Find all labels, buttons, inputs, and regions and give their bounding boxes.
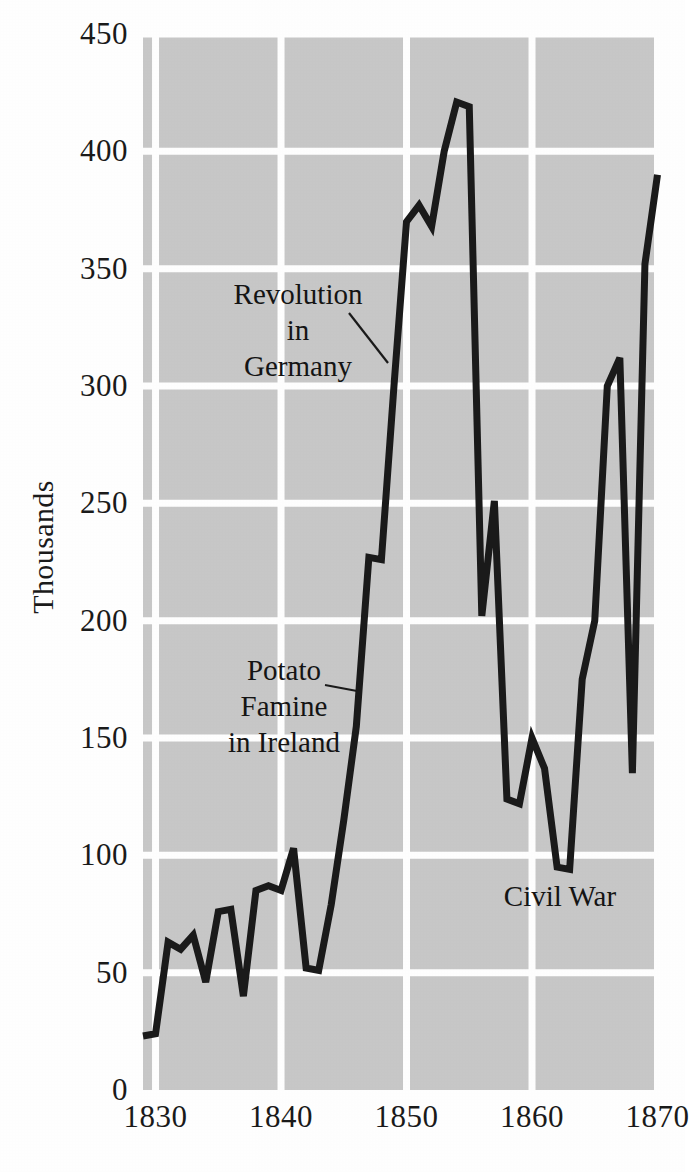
y-tick-label: 350 (28, 253, 128, 284)
annotation-line: Famine (186, 688, 382, 724)
y-axis-title: Thousands (26, 447, 60, 647)
y-tick-label: 50 (28, 957, 128, 988)
y-tick-400: 400 (18, 135, 128, 166)
y-tick-label: 400 (28, 135, 128, 166)
x-tick-label: 1850 (342, 1100, 472, 1134)
x-tick-1860: 1860 (467, 1100, 597, 1134)
x-tick-label: 1840 (216, 1100, 346, 1134)
annotation-line: in Ireland (186, 724, 382, 760)
annotation-potato-famine-in-ireland: Potato Famine in Ireland (186, 652, 382, 760)
y-tick-300: 300 (18, 370, 128, 401)
annotation-line: Civil War (470, 878, 650, 914)
x-tick-1840: 1840 (216, 1100, 346, 1134)
x-tick-label: 1860 (467, 1100, 597, 1134)
annotation-line: Revolution (198, 276, 398, 312)
y-tick-450: 450 (18, 18, 128, 49)
y-tick-label: 450 (28, 18, 128, 49)
x-tick-1830: 1830 (91, 1100, 221, 1134)
gridlines-group (143, 34, 660, 1090)
annotation-line: in (198, 312, 398, 348)
y-tick-100: 100 (18, 839, 128, 870)
y-tick-50: 50 (18, 957, 128, 988)
x-tick-1870: 1870 (592, 1100, 693, 1134)
x-tick-1850: 1850 (342, 1100, 472, 1134)
annotation-line: Potato (186, 652, 382, 688)
y-tick-350: 350 (18, 253, 128, 284)
y-tick-label: 150 (28, 722, 128, 753)
y-tick-label: 100 (28, 839, 128, 870)
x-tick-label: 1870 (592, 1100, 693, 1134)
annotation-line: Germany (198, 348, 398, 384)
annotation-civil-war: Civil War (470, 878, 650, 914)
x-tick-label: 1830 (91, 1100, 221, 1134)
y-tick-label: 300 (28, 370, 128, 401)
annotation-revolution-in-germany: Revolution in Germany (198, 276, 398, 384)
y-tick-150: 150 (18, 722, 128, 753)
